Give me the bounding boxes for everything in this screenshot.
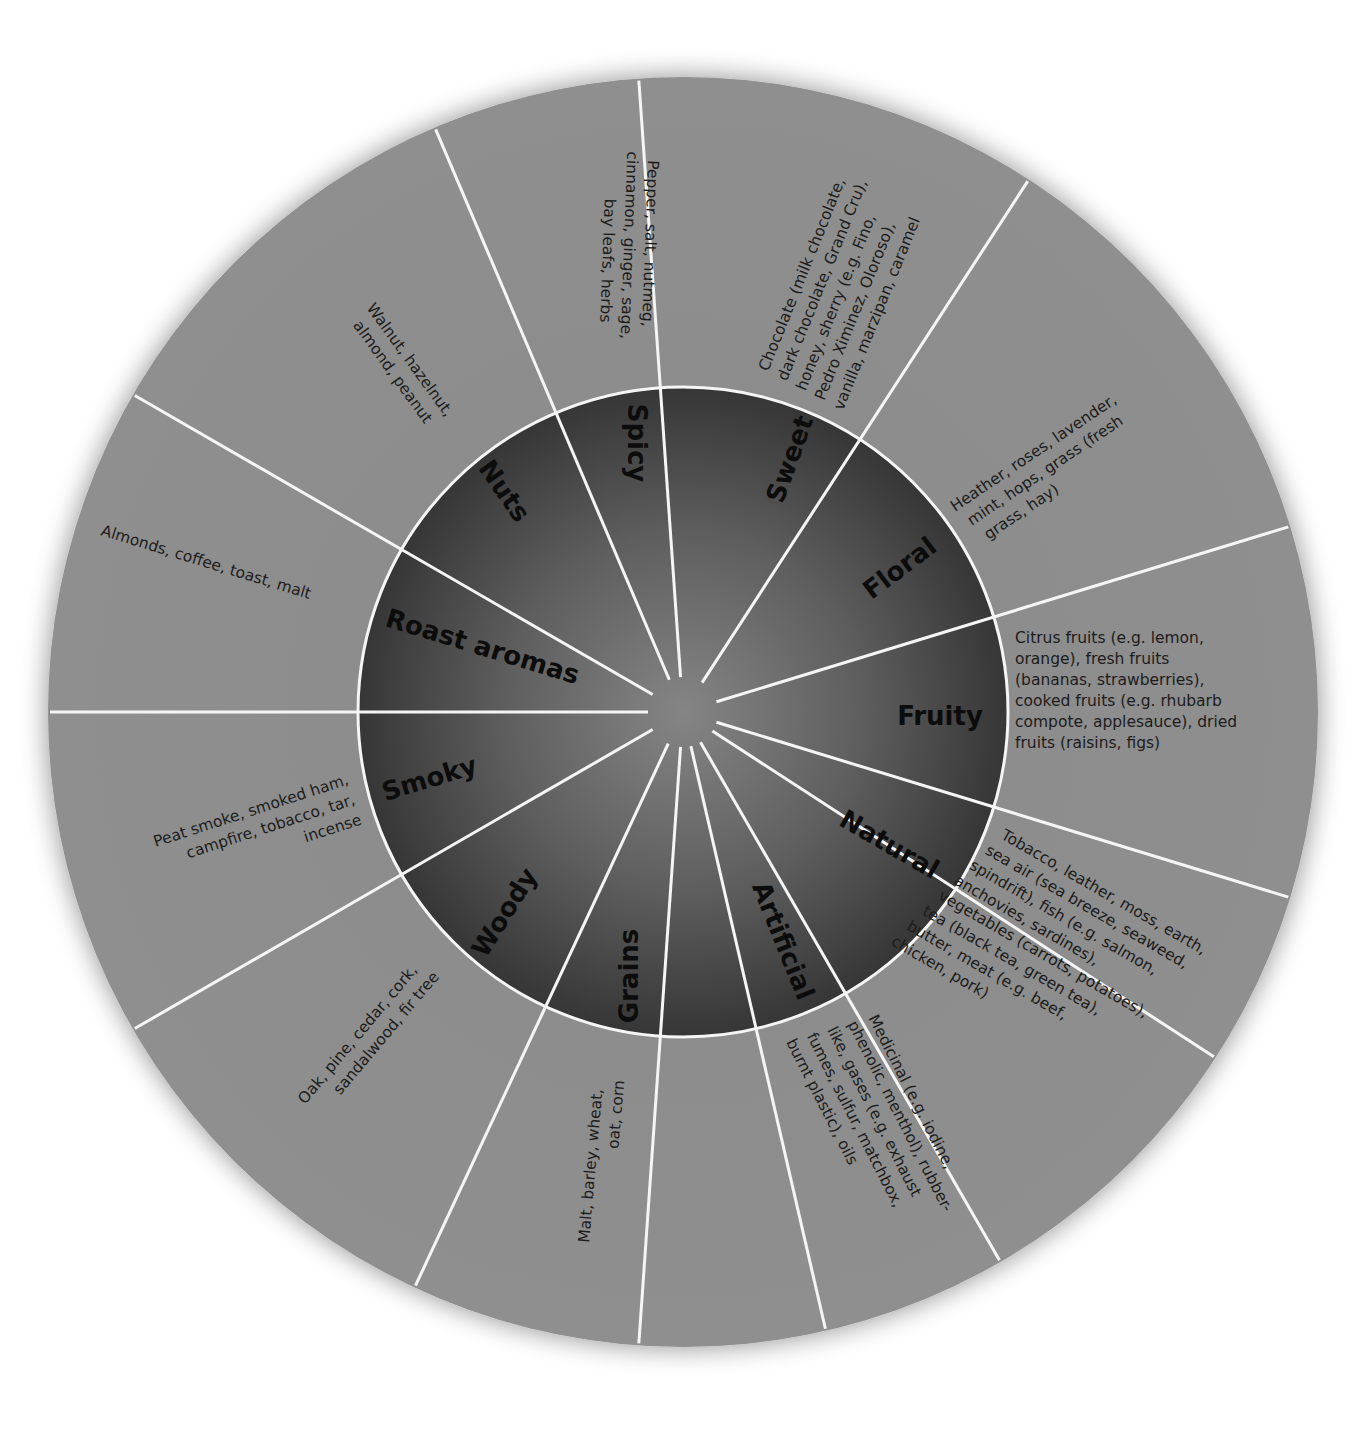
svg-text:Citrus fruits (e.g. lemon,: Citrus fruits (e.g. lemon, bbox=[1015, 629, 1204, 647]
svg-text:orange), fresh fruits: orange), fresh fruits bbox=[1015, 650, 1169, 668]
svg-text:(bananas, strawberries),: (bananas, strawberries), bbox=[1015, 671, 1204, 689]
svg-text:cooked fruits (e.g. rhubarb: cooked fruits (e.g. rhubarb bbox=[1015, 692, 1222, 710]
flavour-wheel: Fruity Natural Artificial Grains Woody S… bbox=[0, 0, 1357, 1442]
category-grains[interactable]: Grains bbox=[614, 929, 644, 1024]
category-fruity[interactable]: Fruity bbox=[897, 701, 983, 731]
category-spicy[interactable]: Spicy bbox=[622, 404, 652, 483]
svg-text:compote, applesauce), dried: compote, applesauce), dried bbox=[1015, 713, 1237, 731]
svg-text:fruits (raisins, figs): fruits (raisins, figs) bbox=[1015, 734, 1160, 752]
